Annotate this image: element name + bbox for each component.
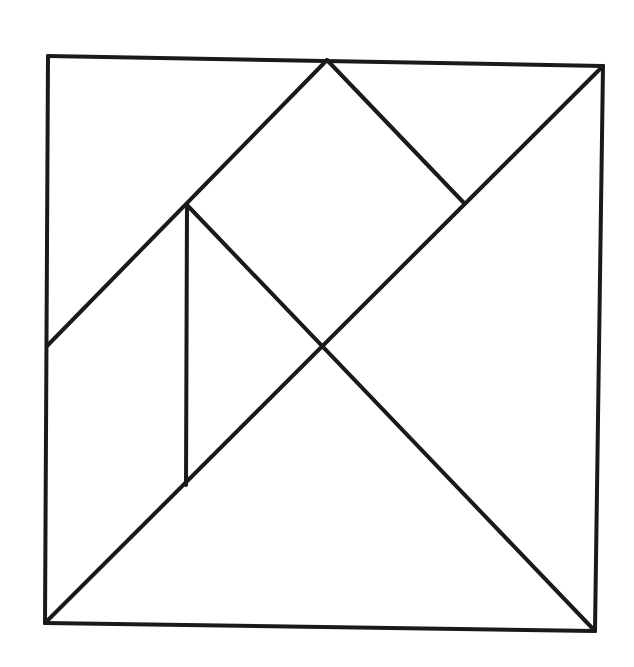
tangram-diagram: Tangram square dissection: [0, 0, 634, 667]
background: [0, 0, 634, 667]
p-to-q-vertical-line: [186, 205, 187, 485]
tangram-svg: [0, 0, 634, 667]
